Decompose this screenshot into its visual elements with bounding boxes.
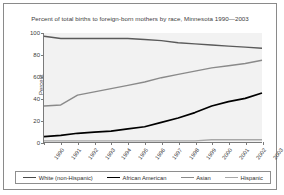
legend-item[interactable]: Hispanic <box>225 175 263 181</box>
legend-line-swatch <box>181 177 194 179</box>
x-tick-mark <box>95 142 96 145</box>
x-tick-label: 1998 <box>188 147 200 161</box>
x-tick-mark <box>162 142 163 145</box>
x-tick-label: 1993 <box>103 147 115 161</box>
y-tick-label: 100 <box>30 30 40 36</box>
x-tick-label: 2001 <box>238 147 250 161</box>
series-lines <box>44 33 262 142</box>
y-tick-label: 20 <box>33 118 40 124</box>
legend-item[interactable]: African American <box>107 175 166 181</box>
x-tick-mark <box>229 142 230 145</box>
legend-label: African American <box>123 175 167 181</box>
x-tick-label: 1992 <box>86 147 98 161</box>
x-tick-mark <box>196 142 197 145</box>
x-tick-mark <box>111 142 112 145</box>
series-line <box>44 60 262 106</box>
x-tick-label: 2000 <box>221 147 233 161</box>
x-tick-mark <box>61 142 62 145</box>
legend-line-swatch <box>107 177 120 179</box>
x-tick-mark <box>145 142 146 145</box>
x-tick-mark <box>212 142 213 145</box>
x-tick-label: 1991 <box>70 147 82 161</box>
x-tick-mark <box>179 142 180 145</box>
x-tick-label: 1990 <box>53 147 65 161</box>
x-tick-mark <box>78 142 79 145</box>
legend-label: Hispanic <box>241 175 263 181</box>
x-tick-label: 1996 <box>154 147 166 161</box>
chart-title: Percent of total births to foreign-born … <box>4 15 276 22</box>
x-tick-label: 1995 <box>137 147 149 161</box>
legend-item[interactable]: Asian <box>181 175 211 181</box>
x-tick-label: 1999 <box>204 147 216 161</box>
series-line <box>44 36 262 48</box>
x-tick-mark <box>263 142 264 145</box>
y-tick-label: 0 <box>37 140 40 146</box>
legend-label: White (non-Hispanic) <box>39 175 93 181</box>
series-line <box>44 140 262 141</box>
figure-frame: Percent of total births to foreign-born … <box>3 3 277 190</box>
y-tick-label: 60 <box>33 74 40 80</box>
x-tick-label: 1994 <box>120 147 132 161</box>
chart-legend: White (non-Hispanic)African AmericanAsia… <box>15 171 271 184</box>
legend-label: Asian <box>196 175 211 181</box>
series-line <box>44 93 262 137</box>
x-tick-label: 2002 <box>255 147 267 161</box>
y-tick-label: 80 <box>33 52 40 58</box>
x-tick-mark <box>44 142 45 145</box>
x-tick-label: 2003 <box>272 147 282 161</box>
plot-area: Percent 020406080100 1990199119921993199… <box>43 33 262 143</box>
y-tick-label: 40 <box>33 96 40 102</box>
legend-line-swatch <box>23 177 36 179</box>
legend-item[interactable]: White (non-Hispanic) <box>23 175 93 181</box>
x-tick-label: 1997 <box>171 147 183 161</box>
x-tick-mark <box>128 142 129 145</box>
x-tick-mark <box>246 142 247 145</box>
legend-line-swatch <box>225 177 238 179</box>
